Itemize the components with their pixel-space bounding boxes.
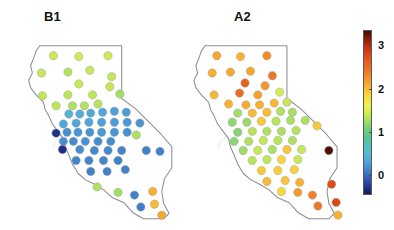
data-point [69,137,77,145]
data-point [137,203,145,211]
data-point [234,109,242,117]
data-point [136,119,144,127]
data-point [263,155,271,163]
data-point [228,118,236,126]
data-point [263,108,271,116]
data-point [295,178,303,186]
data-point [248,156,256,164]
data-point [275,88,283,96]
data-point [272,117,280,125]
data-point [334,211,342,219]
data-point [213,52,221,60]
data-point [327,180,335,188]
data-point [142,146,150,154]
data-point [248,109,256,117]
colorbar-tick-mark [369,45,372,46]
data-point [110,128,118,136]
data-point [261,82,269,90]
colorbar-tick-label: 2 [378,84,384,95]
data-point [132,131,140,139]
data-point [283,98,291,106]
data-point [122,108,130,116]
data-point [268,72,276,80]
data-point [236,52,244,60]
value-colorbar: 3210 [363,30,394,195]
data-point [263,52,271,60]
data-point [255,101,263,109]
data-point [72,156,80,164]
data-point [148,187,156,195]
data-point [75,52,83,60]
data-point [325,146,333,154]
data-point [123,128,131,136]
data-point [313,122,321,130]
data-point [114,188,122,196]
data-point [97,118,105,126]
data-point [226,68,234,76]
data-point [76,110,84,118]
data-point [332,198,340,206]
data-point [93,183,101,191]
data-point [59,137,67,145]
data-point [235,89,243,97]
data-point [281,176,289,184]
data-point [224,100,232,108]
colorbar-gradient [363,30,372,195]
data-point [85,156,93,164]
data-point [257,166,265,174]
data-point [80,102,88,110]
data-point [254,91,262,99]
data-point [87,167,95,175]
map-b1 [8,22,188,227]
figure-canvas: B1 A2 [0,0,394,230]
data-point [243,118,251,126]
data-point [314,202,322,210]
data-point [104,146,112,154]
data-point [64,91,72,99]
data-point [274,136,282,144]
data-point [85,118,93,126]
data-point [110,118,118,126]
data-point [52,102,60,110]
data-point [257,117,265,125]
data-point [210,91,218,99]
data-point [297,145,305,153]
data-point [244,137,252,145]
colorbar-tick-mark [369,89,372,90]
colorbar-tick-label: 1 [378,127,384,138]
data-point [117,146,125,154]
data-point [277,187,285,195]
colorbar-tick-mark [369,175,372,176]
data-point [38,92,46,100]
data-point [239,146,247,154]
data-point [130,191,138,199]
data-point [97,128,105,136]
data-point [121,165,129,173]
data-point [52,129,60,137]
data-point [74,128,82,136]
data-point [75,80,83,88]
data-point [234,128,242,136]
data-point [98,108,106,116]
data-point [241,79,249,87]
data-point [156,147,164,155]
map-b1-svg [8,22,188,227]
data-point [263,177,271,185]
data-point [123,118,131,126]
data-point [72,119,80,127]
data-point [81,137,89,145]
data-point [107,72,115,80]
map-a2-svg [196,22,356,227]
colorbar-tick-label: 0 [378,170,384,181]
data-point [103,167,111,175]
colorbar-tick-label: 3 [378,40,384,51]
data-point [87,109,95,117]
data-point [292,126,300,134]
data-point [208,69,216,77]
data-point [65,110,73,118]
data-point [59,120,67,128]
data-point [76,145,84,153]
data-point [242,101,250,109]
data-point [68,102,76,110]
data-point [248,127,256,135]
